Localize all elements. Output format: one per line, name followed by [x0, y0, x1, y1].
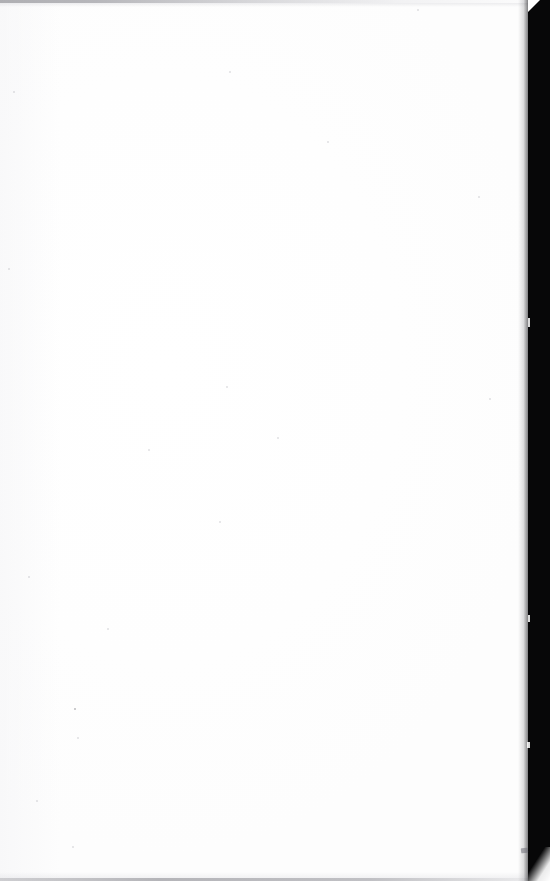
scan-edge-line-bottom-soft	[0, 872, 530, 878]
scan-edge-line-top-soft	[0, 3, 533, 7]
scanned-page	[0, 0, 550, 881]
gutter-edge-fleck	[527, 742, 530, 748]
scan-speckle	[36, 800, 38, 802]
scan-speckle	[74, 708, 76, 710]
scan-speckle	[8, 268, 10, 270]
scan-speckle	[13, 91, 15, 93]
scan-speckle	[226, 386, 228, 388]
paper-surface	[0, 0, 550, 881]
smudge-mark	[521, 848, 529, 854]
scan-speckle	[417, 9, 419, 11]
scan-speckle	[327, 141, 329, 143]
gutter-edge-fleck	[528, 318, 530, 327]
scan-speckle	[148, 449, 150, 451]
scan-speckle	[72, 846, 74, 848]
scan-speckle	[219, 521, 221, 523]
scan-speckle	[489, 398, 491, 400]
gutter-edge-fleck	[528, 615, 530, 622]
scan-speckle	[107, 628, 109, 630]
gutter-notch-top	[528, 0, 540, 12]
binding-gutter-shadow	[528, 0, 550, 881]
scan-speckle	[277, 437, 279, 439]
gutter-taper-bottom	[528, 847, 550, 881]
gutter-penumbra	[518, 0, 528, 881]
scan-speckle	[28, 576, 30, 578]
scan-speckle	[77, 737, 79, 739]
scan-speckle	[229, 71, 231, 73]
scan-speckle	[478, 196, 480, 198]
